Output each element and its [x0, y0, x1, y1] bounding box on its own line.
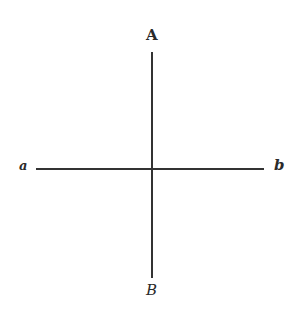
label-left-a: a [19, 159, 27, 172]
label-right-b: b [274, 158, 285, 173]
label-top-A: A [146, 28, 158, 43]
cross-diagram: A B a b [0, 0, 293, 324]
diagram-svg [0, 0, 293, 324]
label-bottom-B: B [146, 283, 157, 298]
